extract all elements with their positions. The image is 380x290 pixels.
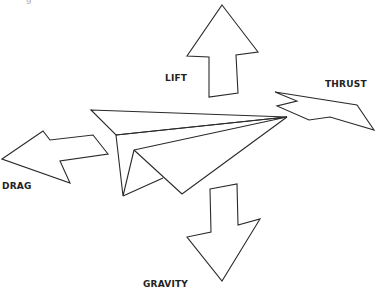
drag-label: DRAG <box>2 181 32 191</box>
thrust-label: THRUST <box>325 79 367 89</box>
gravity-label: GRAVITY <box>143 279 188 289</box>
forces-diagram: g LIFT THRUST DRAG GRAVITY <box>0 0 380 290</box>
plane-body-fold <box>116 117 287 150</box>
lift-label: LIFT <box>165 73 187 83</box>
drag-arrow-icon <box>2 131 108 183</box>
gravity-arrow-icon <box>187 184 260 281</box>
plane-top-wing <box>91 110 287 135</box>
plane-left-side <box>116 135 134 196</box>
thrust-arrow-icon <box>275 92 374 130</box>
lift-arrow-icon <box>187 5 258 97</box>
plane-inner-crease <box>123 178 163 196</box>
paper-airplane-icon <box>91 110 287 196</box>
diagram-drawing <box>0 0 380 290</box>
plane-keel <box>134 117 287 194</box>
